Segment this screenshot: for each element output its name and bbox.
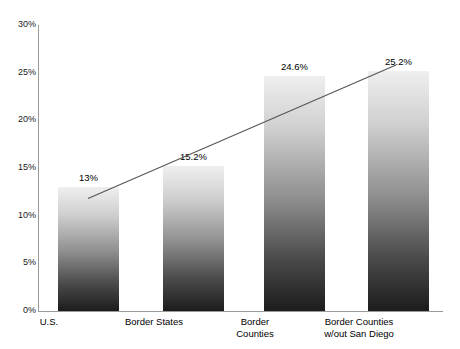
x-axis-line <box>38 311 443 312</box>
category-line: w/out San Diego <box>307 328 411 340</box>
category-line: Border Counties <box>307 316 411 328</box>
x-axis-category-border-counties: Border Counties <box>203 316 307 339</box>
y-axis-tick-label: 0% <box>4 306 36 315</box>
bar-us <box>58 187 119 311</box>
y-axis-tick-label: 10% <box>4 211 36 220</box>
bar-value-label-border-counties-wout-san-diego: 25.2% <box>364 57 434 67</box>
y-axis-tick-label: 20% <box>4 115 36 124</box>
bar-value-label-us: 13% <box>54 173 124 183</box>
category-line: U.S. <box>0 316 101 328</box>
y-axis-tick-label: 25% <box>4 68 36 77</box>
category-line: Border States <box>102 316 206 328</box>
y-axis-tick-label: 5% <box>4 258 36 267</box>
y-axis-tick-label: 15% <box>4 163 36 172</box>
bar-border-counties-wout-san-diego <box>368 71 429 311</box>
x-axis-category-border-counties-wout-san-diego: Border Counties w/out San Diego <box>307 316 411 339</box>
x-axis-category-border-states: Border States <box>102 316 206 328</box>
y-axis-tick-label: 30% <box>4 20 36 29</box>
plot-area <box>39 25 443 311</box>
bar-border-states <box>163 166 224 311</box>
bar-chart: 30% 25% 20% 15% 10% 5% 0% 13% 15.2% 24.6… <box>0 0 460 349</box>
category-line: Border <box>203 316 307 328</box>
x-axis-category-us: U.S. <box>0 316 101 328</box>
bar-value-label-border-counties: 24.6% <box>260 62 330 72</box>
bar-border-counties <box>264 76 325 311</box>
bar-value-label-border-states: 15.2% <box>159 152 229 162</box>
category-line: Counties <box>203 328 307 340</box>
